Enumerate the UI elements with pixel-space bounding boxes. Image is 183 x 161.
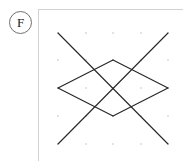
grid-dot [57, 115, 59, 117]
line-drawing-canvas [39, 10, 183, 161]
grid-dot [167, 59, 169, 61]
grid-dot [85, 32, 87, 34]
diamond-lower-left-edge [58, 88, 113, 116]
grid-dot [85, 143, 87, 145]
diamond-upper-left-edge [58, 60, 113, 88]
drawing-panel [38, 9, 183, 161]
grid-dot [112, 143, 114, 145]
diamond-lower-right-edge [113, 88, 168, 116]
grid-dot [85, 87, 87, 89]
grid-dot [140, 87, 142, 89]
grid-dot [140, 143, 142, 145]
line-segment-group [58, 33, 168, 144]
diamond-upper-right-edge [113, 60, 168, 88]
figure-container: F [0, 0, 183, 161]
grid-dot [57, 59, 59, 61]
grid-dot [112, 32, 114, 34]
grid-dot [140, 32, 142, 34]
panel-label-text: F [17, 16, 24, 29]
grid-dot [167, 115, 169, 117]
circled-letter-label: F [9, 11, 32, 34]
